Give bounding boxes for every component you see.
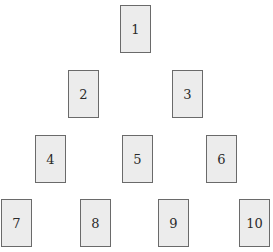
card-4: 4 xyxy=(35,135,66,183)
card-label: 3 xyxy=(183,87,191,102)
card-label: 10 xyxy=(246,216,263,231)
card-label: 7 xyxy=(12,216,20,231)
card-3: 3 xyxy=(172,70,203,118)
card-10: 10 xyxy=(239,199,270,247)
card-1: 1 xyxy=(120,5,151,53)
card-9: 9 xyxy=(158,199,189,247)
card-6: 6 xyxy=(206,135,237,183)
card-8: 8 xyxy=(80,199,111,247)
card-5: 5 xyxy=(122,135,153,183)
card-2: 2 xyxy=(68,70,99,118)
card-label: 8 xyxy=(91,216,99,231)
card-label: 4 xyxy=(46,152,54,167)
card-7: 7 xyxy=(1,199,32,247)
card-label: 1 xyxy=(131,22,139,37)
card-label: 2 xyxy=(79,87,87,102)
card-label: 9 xyxy=(169,216,177,231)
card-label: 6 xyxy=(217,152,225,167)
card-label: 5 xyxy=(133,152,141,167)
